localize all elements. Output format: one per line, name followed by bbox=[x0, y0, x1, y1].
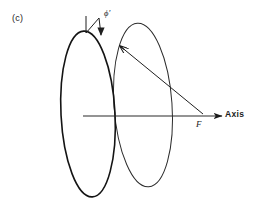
focal-ray bbox=[120, 46, 203, 114]
focus-point-label: F bbox=[196, 120, 202, 129]
figure-drawing-canvas bbox=[0, 0, 256, 206]
panel-label: (c) bbox=[12, 14, 23, 23]
figure-panel-c: (c) ϕ′ F Axis bbox=[0, 0, 256, 206]
tilt-angle-label: ϕ′ bbox=[104, 9, 110, 18]
front-ring bbox=[57, 30, 120, 199]
rear-ring bbox=[108, 21, 177, 189]
axis-label: Axis bbox=[225, 110, 244, 119]
